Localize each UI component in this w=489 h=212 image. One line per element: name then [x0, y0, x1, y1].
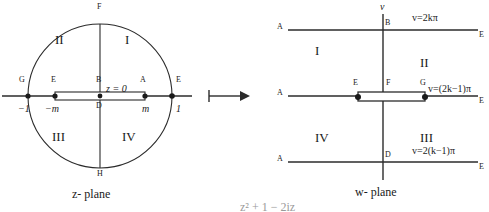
- z-point-A-label: A: [140, 76, 146, 84]
- w-point-B-label: B: [385, 19, 390, 27]
- w-plane-name: w- plane: [355, 186, 397, 198]
- footer-partial-formula: z² + 1 − 2iz: [240, 200, 295, 212]
- conformal-mapping-figure: F H II I III IV G E B A E D z = 0 −1 −m …: [0, 0, 489, 212]
- z-point-E-left-dot: [52, 93, 57, 98]
- w-top-equation: v=2kπ: [412, 13, 438, 23]
- w-quadrant-IV-label: IV: [315, 131, 329, 144]
- w-point-E-top-right-label: E: [479, 31, 484, 39]
- z-point-G-dot: [25, 93, 30, 98]
- w-slit: [358, 92, 425, 101]
- w-quadrant-III-label: III: [420, 131, 433, 144]
- w-point-A-bottom-label: A: [277, 155, 283, 163]
- w-point-E-mid-right-label: E: [479, 97, 484, 105]
- z-point-A-dot: [142, 93, 147, 98]
- z-plane-name: z- plane: [72, 188, 110, 200]
- w-quadrant-I-label: I: [315, 44, 319, 57]
- z-tick-minus-m: −m: [45, 104, 59, 114]
- w-point-G-label: G: [420, 79, 426, 87]
- w-v-axis-label: v: [380, 2, 384, 12]
- w-point-E-bottom-right-label: E: [479, 163, 484, 171]
- z-point-H-label: H: [97, 170, 103, 178]
- mapsto-head: [240, 91, 250, 101]
- w-point-G-dot: [422, 94, 428, 100]
- z-point-G-label: G: [19, 76, 25, 84]
- z-quadrant-I-label: I: [125, 33, 129, 46]
- z-point-D-dot: [98, 94, 103, 99]
- z-point-E-right-label: E: [176, 76, 181, 84]
- z-tick-m: m: [142, 104, 149, 114]
- w-point-D-label: D: [385, 151, 391, 159]
- w-bottom-equation: v=2(k−1)π: [412, 146, 455, 156]
- z-point-D-label: D: [96, 102, 102, 110]
- z-point-E-left-label: E: [51, 76, 56, 84]
- z-tick-minus-one: −1: [18, 104, 30, 114]
- z-quadrant-III-label: III: [52, 130, 65, 143]
- w-quadrant-II-label: II: [420, 56, 429, 69]
- z-quadrant-II-label: II: [55, 33, 64, 46]
- figure-vector-graphics: [0, 0, 489, 212]
- z-plane-graphics: [2, 24, 192, 168]
- z-quadrant-IV-label: IV: [122, 130, 136, 143]
- z-tick-one: 1: [176, 104, 181, 114]
- z-point-E-right-dot: [169, 93, 175, 99]
- w-point-E-mid-label: E: [353, 79, 358, 87]
- z-point-B-label: B: [96, 76, 101, 84]
- mapsto-arrow: [209, 90, 250, 102]
- z-origin-value-label: z = 0: [106, 84, 127, 94]
- w-point-F-label: F: [386, 79, 390, 87]
- w-middle-equation: v=(2k−1)π: [428, 84, 471, 94]
- w-point-A-mid-label: A: [277, 89, 283, 97]
- z-point-F-label: F: [97, 3, 101, 11]
- w-point-E-dot: [355, 94, 361, 100]
- w-point-A-top-label: A: [277, 23, 283, 31]
